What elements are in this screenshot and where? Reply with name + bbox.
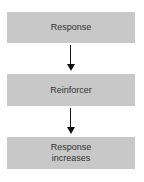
arrow-shaft [70,108,71,128]
node-reinforcer: Reinforcer [7,74,135,106]
arrow-shaft [70,45,71,65]
node-label: Reinforcer [50,85,92,96]
node-label: Response [51,22,92,33]
arrow-down-icon [67,127,75,134]
node-response: Response [7,12,135,43]
arrow-down-icon [67,64,75,71]
node-label-line1: Response [51,142,92,153]
node-response-increases: Response increases [7,137,135,169]
node-label-line2: increases [52,153,91,164]
